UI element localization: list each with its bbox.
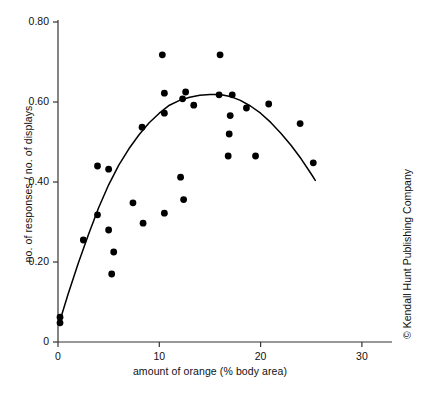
- data-point: [177, 174, 184, 181]
- data-point: [140, 220, 147, 227]
- data-point: [225, 153, 232, 160]
- scatter-plot-figure: no. of responses / no. of displays amoun…: [0, 0, 426, 396]
- data-point: [252, 153, 259, 160]
- data-point: [159, 51, 166, 58]
- data-point: [265, 101, 272, 108]
- y-tick-label: 0.20: [0, 255, 49, 267]
- data-point: [94, 211, 101, 218]
- data-point: [110, 249, 117, 256]
- copyright-notice: © Kendall Hunt Publishing Company: [401, 139, 413, 369]
- data-point: [94, 163, 101, 170]
- data-points-group: [57, 51, 317, 326]
- data-point: [161, 110, 168, 117]
- data-point: [57, 319, 64, 326]
- data-point: [310, 159, 317, 166]
- x-tick-label: 10: [139, 350, 179, 362]
- data-point: [217, 51, 224, 58]
- x-tick-label: 0: [38, 350, 78, 362]
- axes-group: [58, 20, 392, 342]
- data-point: [130, 199, 137, 206]
- y-tick-label: 0.40: [0, 175, 49, 187]
- x-axis-label: amount of orange (% body area): [0, 365, 420, 377]
- x-tick-label: 20: [241, 350, 281, 362]
- data-point: [229, 91, 236, 98]
- fitted-curve: [60, 94, 316, 322]
- data-point: [161, 90, 168, 97]
- data-point: [161, 210, 168, 217]
- data-point: [190, 102, 197, 109]
- y-axis-ticks: [53, 22, 58, 342]
- data-point: [179, 95, 186, 102]
- fitted-curve-path: [60, 94, 316, 322]
- data-point: [105, 166, 112, 173]
- data-point: [139, 124, 146, 131]
- data-point: [182, 89, 189, 96]
- y-tick-label: 0.80: [0, 15, 49, 27]
- data-point: [180, 196, 187, 203]
- data-point: [80, 237, 87, 244]
- plot-canvas: [0, 0, 426, 396]
- data-point: [243, 105, 250, 112]
- data-point: [105, 227, 112, 234]
- x-axis-ticks: [58, 342, 362, 347]
- data-point: [297, 120, 304, 127]
- x-tick-label: 30: [342, 350, 382, 362]
- y-tick-label: 0.60: [0, 95, 49, 107]
- y-tick-label: 0: [0, 335, 49, 347]
- data-point: [227, 112, 234, 119]
- data-point: [108, 271, 115, 278]
- data-point: [216, 91, 223, 98]
- data-point: [226, 131, 233, 138]
